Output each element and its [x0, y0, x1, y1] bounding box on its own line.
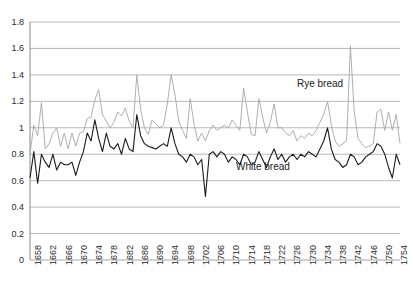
annotation-white-bread: White bread: [236, 161, 290, 172]
x-tick-label: 1678: [110, 245, 119, 265]
x-tick-label: 1690: [156, 245, 165, 265]
y-tick-label: 1.4: [0, 70, 24, 80]
x-tick-label: 1750: [385, 245, 394, 265]
x-tick-label: 1706: [217, 245, 226, 265]
y-tick-label: 1.2: [0, 96, 24, 106]
x-tick-label: 1722: [278, 245, 287, 265]
x-tick-label: 1686: [141, 245, 150, 265]
x-tick-label: 1714: [248, 245, 257, 265]
x-tick-label: 1718: [263, 245, 272, 265]
bread-price-line-chart: 00.20.40.60.811.21.41.61.8 1658166216661…: [0, 0, 413, 305]
x-tick-label: 1746: [370, 245, 379, 265]
y-tick-label: 0.6: [0, 176, 24, 186]
y-tick-label: 0.4: [0, 202, 24, 212]
x-tick-label: 1694: [171, 245, 180, 265]
series-line-rye-bread: [30, 46, 400, 154]
x-tick-label: 1662: [49, 245, 58, 265]
y-tick-label: 1.6: [0, 43, 24, 53]
x-tick-label: 1670: [80, 245, 89, 265]
x-tick-label: 1738: [339, 245, 348, 265]
x-tick-label: 1726: [293, 245, 302, 265]
y-tick-label: 1.8: [0, 17, 24, 27]
x-tick-label: 1734: [324, 245, 333, 265]
x-tick-label: 1730: [309, 245, 318, 265]
y-tick-label: 0.8: [0, 149, 24, 159]
x-tick-label: 1666: [65, 245, 74, 265]
x-tick-label: 1702: [202, 245, 211, 265]
x-tick-label: 1682: [126, 245, 135, 265]
x-tick-label: 1658: [34, 245, 43, 265]
x-tick-label: 1754: [400, 245, 409, 265]
y-tick-label: 0.2: [0, 229, 24, 239]
x-tick-label: 1710: [232, 245, 241, 265]
annotation-rye-bread: Rye bread: [297, 78, 343, 89]
x-tick-label: 1698: [187, 245, 196, 265]
y-tick-label: 1: [0, 123, 24, 133]
y-tick-label: 0: [0, 255, 24, 265]
x-tick-label: 1674: [95, 245, 104, 265]
series-line-white-bread: [30, 115, 400, 197]
x-tick-label: 1742: [354, 245, 363, 265]
